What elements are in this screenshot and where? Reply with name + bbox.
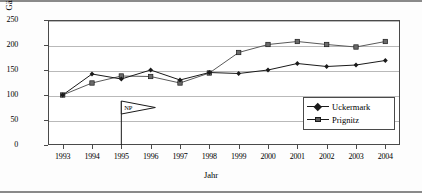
legend-item-prignitz[interactable]: Prignitz (307, 113, 391, 126)
np-flag-label: NP (124, 104, 132, 111)
gridline (49, 71, 399, 72)
x-tick-mark (121, 145, 122, 149)
y-tick-label: 200 (0, 41, 18, 49)
y-axis-label-wrapper: Gästeübernachtungen (Index) (6, 12, 18, 144)
x-tick-mark (92, 145, 93, 149)
chart-legend: Uckermark Prignitz (303, 97, 395, 130)
y-tick-label: 250 (0, 16, 18, 24)
legend-marker-square-icon (307, 115, 329, 125)
x-tick-mark (385, 145, 386, 149)
gridline (49, 21, 399, 22)
legend-marker-diamond-icon (307, 102, 329, 112)
legend-item-uckermark[interactable]: Uckermark (307, 100, 391, 113)
x-tick-mark (327, 145, 328, 149)
x-tick-mark (151, 145, 152, 149)
legend-label-prignitz: Prignitz (332, 115, 359, 125)
x-tick-label: 2004 (368, 152, 402, 161)
gridline (49, 46, 399, 47)
x-tick-mark (297, 145, 298, 149)
x-tick-mark (180, 145, 181, 149)
y-tick-label: 150 (0, 66, 18, 74)
y-tick-label: 0 (0, 141, 18, 149)
x-tick-mark (63, 145, 64, 149)
x-tick-mark (356, 145, 357, 149)
chart-figure: Gästeübernachtungen (Index) 050100150200… (0, 0, 422, 193)
y-tick-label: 100 (0, 91, 18, 99)
x-tick-mark (268, 145, 269, 149)
y-tick-label: 50 (0, 116, 18, 124)
legend-label-uckermark: Uckermark (332, 102, 370, 112)
x-tick-mark (239, 145, 240, 149)
x-tick-mark (209, 145, 210, 149)
y-tick-mark (44, 145, 48, 146)
x-axis-label: Jahr (0, 170, 422, 180)
